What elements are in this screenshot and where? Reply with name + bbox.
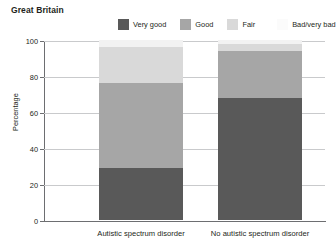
legend-swatch-icon bbox=[180, 19, 191, 30]
y-axis-tick-label: 80 bbox=[30, 73, 38, 82]
legend-swatch-icon bbox=[227, 19, 238, 30]
legend-label: Good bbox=[195, 19, 213, 30]
legend-label: Bad/very bad bbox=[292, 19, 336, 30]
bar-segment-bad-very-bad bbox=[218, 40, 302, 44]
legend-item-good: Good bbox=[180, 18, 213, 30]
bar-segment-good bbox=[218, 51, 302, 98]
bar-segment-very-good bbox=[218, 98, 302, 220]
bar-segment-fair bbox=[218, 44, 302, 51]
y-axis-tick bbox=[40, 149, 44, 150]
x-axis-category-label: Autistic spectrum disorder bbox=[97, 229, 184, 238]
y-axis-tick bbox=[40, 221, 44, 222]
legend-item-bad-very-bad: Bad/very bad bbox=[277, 18, 336, 30]
bar-segment-very-good bbox=[99, 168, 183, 220]
y-axis-tick-label: 100 bbox=[26, 37, 38, 46]
bar-column bbox=[99, 40, 183, 220]
legend-swatch-icon bbox=[277, 19, 288, 30]
y-axis-line bbox=[44, 41, 45, 222]
plot-area: 100806040200Autistic spectrum disorderNo… bbox=[44, 41, 325, 221]
bar-column bbox=[218, 40, 302, 220]
y-axis-tick bbox=[40, 77, 44, 78]
y-axis-tick bbox=[40, 41, 44, 42]
y-axis-tick-label: 20 bbox=[30, 181, 38, 190]
bar-segment-bad-very-bad bbox=[99, 40, 183, 47]
legend-label: Very good bbox=[133, 19, 166, 30]
x-axis-line bbox=[44, 221, 326, 222]
legend-item-fair: Fair bbox=[227, 18, 255, 30]
legend-swatch-icon bbox=[118, 19, 129, 30]
chart-container: Great Britain Very goodGoodFairBad/very … bbox=[0, 0, 336, 248]
chart-legend: Very goodGoodFairBad/very bad bbox=[118, 18, 336, 30]
chart-title: Great Britain bbox=[11, 5, 64, 15]
bar-segment-fair bbox=[99, 47, 183, 83]
y-axis-label: Percentage bbox=[11, 93, 20, 131]
y-axis-tick bbox=[40, 113, 44, 114]
bar-segment-good bbox=[99, 83, 183, 168]
y-axis-tick-label: 40 bbox=[30, 145, 38, 154]
y-axis-tick bbox=[40, 185, 44, 186]
legend-item-very-good: Very good bbox=[118, 18, 166, 30]
legend-label: Fair bbox=[242, 19, 255, 30]
y-axis-tick-label: 60 bbox=[30, 109, 38, 118]
y-axis-tick-label: 0 bbox=[34, 217, 38, 226]
x-axis-category-label: No autistic spectrum disorder bbox=[211, 229, 309, 238]
